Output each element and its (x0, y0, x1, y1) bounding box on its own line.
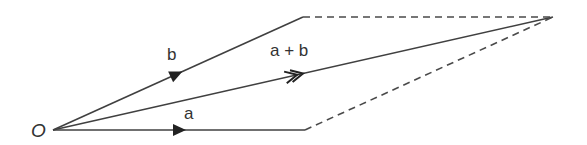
origin-label: O (31, 121, 46, 140)
diagram-svg (0, 0, 587, 145)
dashed-side-right (305, 17, 553, 130)
vector-b-label: b (167, 46, 176, 63)
vector-diagram: O a b a + b (0, 0, 587, 145)
vector-a-label: a (184, 105, 193, 122)
arrowhead-b-icon (168, 66, 185, 82)
arrowhead-a-icon (173, 124, 186, 136)
vector-sum-label: a + b (270, 42, 308, 59)
